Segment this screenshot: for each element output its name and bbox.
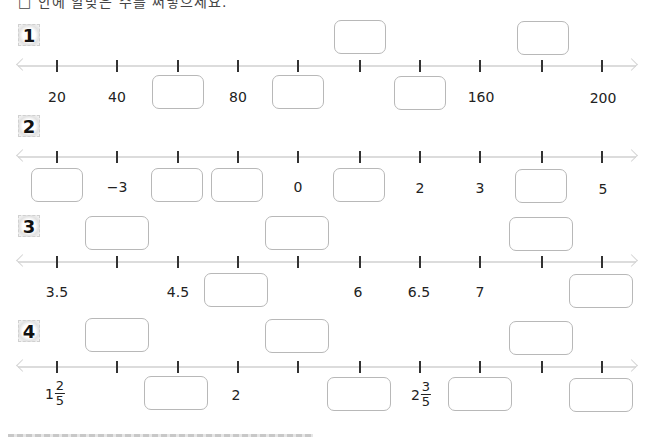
tick xyxy=(601,361,603,373)
problem-number: 4 xyxy=(18,320,40,342)
answer-box[interactable] xyxy=(211,168,263,202)
arrow-right-icon xyxy=(625,58,638,71)
instruction-text: □ 안에 알맞은 수를 써넣으세요. xyxy=(18,0,227,5)
answer-box[interactable] xyxy=(151,168,203,202)
tick xyxy=(177,361,179,373)
tick xyxy=(237,151,239,163)
tick xyxy=(419,361,421,373)
arrow-left-icon xyxy=(16,254,29,267)
arrow-right-icon xyxy=(625,149,638,162)
answer-box[interactable] xyxy=(509,321,573,355)
problem-number: 2 xyxy=(18,115,40,137)
tick xyxy=(297,151,299,163)
arrow-right-icon xyxy=(625,254,638,267)
answer-box[interactable] xyxy=(85,216,149,250)
tick-label: 5 xyxy=(599,181,608,197)
tick xyxy=(56,361,58,373)
tick xyxy=(479,151,481,163)
tick xyxy=(479,256,481,268)
answer-box[interactable] xyxy=(265,216,329,250)
problem-number: 1 xyxy=(18,24,40,46)
problem-number: 3 xyxy=(18,215,40,237)
tick xyxy=(359,256,361,268)
number-line xyxy=(18,261,636,263)
tick xyxy=(56,151,58,163)
answer-box[interactable] xyxy=(144,376,208,410)
numerator: 2 xyxy=(55,379,65,394)
tick xyxy=(177,60,179,72)
answer-box[interactable] xyxy=(515,169,567,203)
tick-label: 6.5 xyxy=(408,284,430,300)
tick xyxy=(541,60,543,72)
tick-label: 0 xyxy=(294,179,303,195)
whole-part: 1 xyxy=(45,386,54,402)
answer-box[interactable] xyxy=(394,76,446,110)
tick xyxy=(419,256,421,268)
arrow-left-icon xyxy=(16,359,29,372)
tick xyxy=(297,361,299,373)
tick xyxy=(177,151,179,163)
tick-label: 4.5 xyxy=(167,284,189,300)
answer-box[interactable] xyxy=(204,273,268,307)
tick xyxy=(116,60,118,72)
tick-label: 2 xyxy=(232,387,241,403)
tick xyxy=(359,361,361,373)
answer-box[interactable] xyxy=(272,75,324,109)
number-line xyxy=(18,65,636,67)
tick-label: 7 xyxy=(476,284,485,300)
tick xyxy=(479,361,481,373)
answer-box[interactable] xyxy=(569,378,633,412)
arrow-left-icon xyxy=(16,58,29,71)
arrow-right-icon xyxy=(625,359,638,372)
tick-label: −3 xyxy=(107,179,128,195)
answer-box[interactable] xyxy=(85,318,149,352)
answer-box[interactable] xyxy=(327,377,391,411)
tick xyxy=(479,60,481,72)
tick-label: 200 xyxy=(590,90,617,106)
tick xyxy=(116,151,118,163)
tick-label: 2 xyxy=(416,180,425,196)
answer-box[interactable] xyxy=(517,21,569,55)
tick-label: 20 xyxy=(48,89,66,105)
arrow-left-icon xyxy=(16,149,29,162)
tick xyxy=(56,256,58,268)
answer-box[interactable] xyxy=(448,377,512,411)
tick xyxy=(419,60,421,72)
tick xyxy=(541,151,543,163)
tick xyxy=(359,60,361,72)
number-line xyxy=(18,156,636,158)
answer-box[interactable] xyxy=(265,319,329,353)
tick xyxy=(116,256,118,268)
tick xyxy=(237,361,239,373)
fraction: 3 5 xyxy=(421,380,431,409)
answer-box[interactable] xyxy=(569,274,633,308)
answer-box[interactable] xyxy=(333,168,385,202)
tick-label-mixed-fraction: 1 2 5 xyxy=(45,379,65,408)
tick xyxy=(297,60,299,72)
divider xyxy=(8,434,313,437)
denominator: 5 xyxy=(422,395,430,409)
tick xyxy=(601,256,603,268)
tick-label-mixed-fraction: 2 3 5 xyxy=(411,380,431,409)
tick xyxy=(541,361,543,373)
tick-label: 6 xyxy=(354,284,363,300)
number-line xyxy=(18,366,636,368)
tick xyxy=(359,151,361,163)
tick-label: 3 xyxy=(476,180,485,196)
tick xyxy=(177,256,179,268)
answer-box[interactable] xyxy=(509,217,573,251)
tick xyxy=(116,361,118,373)
tick-label: 160 xyxy=(468,89,495,105)
fraction: 2 5 xyxy=(55,379,65,408)
tick-label: 40 xyxy=(108,89,126,105)
answer-box[interactable] xyxy=(334,20,386,54)
answer-box[interactable] xyxy=(152,75,204,109)
tick xyxy=(237,60,239,72)
tick-label: 3.5 xyxy=(46,284,68,300)
tick xyxy=(601,151,603,163)
tick xyxy=(541,256,543,268)
answer-box[interactable] xyxy=(31,168,83,202)
tick xyxy=(419,151,421,163)
numerator: 3 xyxy=(421,380,431,395)
denominator: 5 xyxy=(56,394,64,408)
